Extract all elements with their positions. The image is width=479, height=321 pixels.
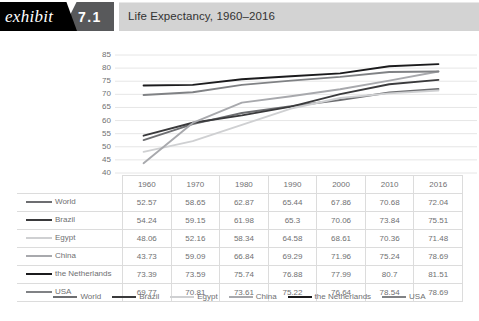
table-row-label: Egypt xyxy=(17,230,123,248)
table-cell: 62.87 xyxy=(220,194,269,212)
y-axis-tick-label: 55 xyxy=(95,129,111,138)
legend-item: the Netherlands xyxy=(288,292,371,301)
table-row: World52.5758.6562.8765.4467.8670.6872.04 xyxy=(17,194,463,212)
table-cell: 72.04 xyxy=(414,194,463,212)
table-cell: 73.84 xyxy=(365,212,414,230)
series-line-egypt xyxy=(144,90,439,151)
series-name: the Netherlands xyxy=(55,269,111,278)
chart-legend: WorldBrazilEgyptChinathe NetherlandsUSA xyxy=(0,292,479,301)
exhibit-title: Life Expectancy, 1960–2016 xyxy=(128,9,275,24)
table-row: Brazil54.2459.1561.9865.370.0673.8475.51 xyxy=(17,212,463,230)
chart-series-lines xyxy=(144,64,439,163)
table-row-label: the Netherlands xyxy=(17,266,123,284)
table-cell: 61.98 xyxy=(220,212,269,230)
table-cell: 58.65 xyxy=(171,194,220,212)
legend-swatch-icon xyxy=(288,296,312,298)
table-column-header: 1970 xyxy=(171,176,220,194)
y-axis-tick-label: 75 xyxy=(95,76,111,85)
series-swatch-icon xyxy=(26,273,52,275)
exhibit-label: exhibit xyxy=(5,7,53,27)
table-column-header: 1990 xyxy=(268,176,317,194)
table-cell: 65.3 xyxy=(268,212,317,230)
table-cell: 81.51 xyxy=(414,266,463,284)
series-name: China xyxy=(55,251,76,260)
legend-swatch-icon xyxy=(382,296,406,298)
exhibit-header: exhibit 7.1 Life Expectancy, 1960–2016 xyxy=(0,0,479,33)
table-column-header: 1980 xyxy=(220,176,269,194)
table-row: Egypt48.0652.1658.3464.5868.6170.3671.48 xyxy=(17,230,463,248)
legend-item: World xyxy=(53,292,101,301)
legend-item: Egypt xyxy=(170,292,217,301)
table-cell: 66.84 xyxy=(220,248,269,266)
table-cell: 68.61 xyxy=(317,230,366,248)
table-column-header: 2016 xyxy=(414,176,463,194)
legend-item: China xyxy=(229,292,277,301)
table-row-label: Brazil xyxy=(17,212,123,230)
series-line-the-netherlands xyxy=(144,64,439,85)
table-row: the Netherlands73.3973.5975.7476.8877.99… xyxy=(17,266,463,284)
chart-gridlines xyxy=(115,55,477,173)
data-table: 1960197019801990200020102016World52.5758… xyxy=(17,175,463,302)
legend-label: Brazil xyxy=(139,292,159,301)
table-column-header: 2000 xyxy=(317,176,366,194)
legend-label: the Netherlands xyxy=(315,292,371,301)
legend-swatch-icon xyxy=(53,296,77,298)
table-cell: 64.58 xyxy=(268,230,317,248)
legend-label: China xyxy=(256,292,277,301)
table-cell: 78.69 xyxy=(414,248,463,266)
table-column-header: 2010 xyxy=(365,176,414,194)
series-swatch-icon xyxy=(26,255,52,257)
y-axis-tick-label: 45 xyxy=(95,155,111,164)
legend-item: USA xyxy=(382,292,425,301)
table-cell: 71.48 xyxy=(414,230,463,248)
table-cell: 52.57 xyxy=(123,194,172,212)
legend-label: USA xyxy=(409,292,425,301)
table-cell: 65.44 xyxy=(268,194,317,212)
table-column-header: 1960 xyxy=(123,176,172,194)
table-cell: 70.36 xyxy=(365,230,414,248)
y-axis-tick-label: 80 xyxy=(95,63,111,72)
table-cell: 52.16 xyxy=(171,230,220,248)
y-axis-tick-label: 50 xyxy=(95,142,111,151)
y-axis-tick-label: 85 xyxy=(95,50,111,59)
table-row: China43.7359.0966.8469.2971.9675.2478.69 xyxy=(17,248,463,266)
table-cell: 69.29 xyxy=(268,248,317,266)
table-cell: 58.34 xyxy=(220,230,269,248)
table-cell: 76.88 xyxy=(268,266,317,284)
table-cell: 77.99 xyxy=(317,266,366,284)
table-row-label: World xyxy=(17,194,123,212)
legend-swatch-icon xyxy=(112,296,136,298)
table-cell: 70.06 xyxy=(317,212,366,230)
table-cell: 54.24 xyxy=(123,212,172,230)
legend-label: World xyxy=(80,292,101,301)
y-axis-tick-label: 60 xyxy=(95,116,111,125)
series-swatch-icon xyxy=(26,201,52,203)
legend-swatch-icon xyxy=(170,296,194,298)
table-cell: 75.24 xyxy=(365,248,414,266)
table-cell: 70.68 xyxy=(365,194,414,212)
table-cell: 75.74 xyxy=(220,266,269,284)
table-cell: 59.09 xyxy=(171,248,220,266)
table-cell: 73.59 xyxy=(171,266,220,284)
table-cell: 75.51 xyxy=(414,212,463,230)
table-cell: 67.86 xyxy=(317,194,366,212)
series-name: Egypt xyxy=(55,233,75,242)
table-cell: 71.96 xyxy=(317,248,366,266)
table-header-row: 1960197019801990200020102016 xyxy=(17,176,463,194)
series-name: Brazil xyxy=(55,215,75,224)
y-axis-tick-label: 65 xyxy=(95,102,111,111)
table-cell: 43.73 xyxy=(123,248,172,266)
table-cell: 80.7 xyxy=(365,266,414,284)
legend-swatch-icon xyxy=(229,296,253,298)
series-name: World xyxy=(55,197,76,206)
y-axis-tick-label: 70 xyxy=(95,89,111,98)
series-swatch-icon xyxy=(26,219,52,221)
table-cell: 73.39 xyxy=(123,266,172,284)
table-cell: 48.06 xyxy=(123,230,172,248)
legend-item: Brazil xyxy=(112,292,159,301)
series-swatch-icon xyxy=(26,237,52,239)
table-row-label: China xyxy=(17,248,123,266)
exhibit-number: 7.1 xyxy=(78,9,102,25)
table-corner-cell xyxy=(17,176,123,194)
table-cell: 59.15 xyxy=(171,212,220,230)
